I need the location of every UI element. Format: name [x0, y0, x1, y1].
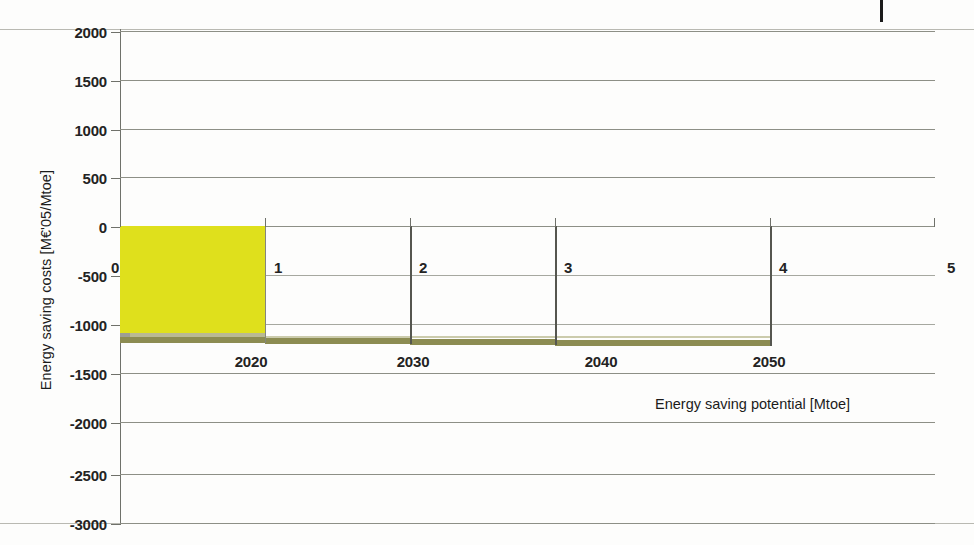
x-tick-4: [770, 218, 771, 227]
vgrid-3: [555, 226, 557, 345]
y-tick-label-minus2000: -2000: [70, 415, 107, 432]
y-tick-minus3000: [111, 524, 120, 525]
x-tick-5: [934, 218, 935, 227]
plot-area: 2000 1500 1000 500 0 -500: [120, 31, 935, 523]
band-baseline-2040: [410, 339, 555, 345]
gridline-minus2500: -2500: [120, 474, 935, 475]
gridline-minus1500: -1500: [120, 373, 935, 374]
y-tick-minus2000: [111, 423, 120, 424]
year-label-2030: 2030: [397, 353, 430, 370]
y-tick-label-1500: 1500: [74, 73, 107, 90]
y-tick-minus1000: [111, 325, 120, 326]
band-baseline-2020: [120, 337, 265, 343]
y-tick-minus500: [111, 276, 120, 277]
year-label-2050: 2050: [753, 353, 786, 370]
x-tick-label-1: 1: [274, 259, 282, 276]
x-tick-label-2: 2: [419, 259, 427, 276]
gridline-minus3000: -3000: [120, 523, 935, 524]
x-tick-2: [410, 218, 411, 227]
vgrid-2: [410, 226, 412, 344]
x-tick-1: [265, 218, 266, 227]
chart-figure: Energy saving costs [M€'05/Mtoe] Energy …: [0, 0, 974, 545]
gridline-500: 500: [120, 177, 935, 178]
gridline-2000: 2000: [120, 31, 935, 32]
x-tick-3: [555, 218, 556, 227]
y-tick-1000: [111, 130, 120, 131]
x-tick-label-0: 0: [111, 259, 119, 276]
vgrid-4: [770, 226, 772, 346]
y-tick-label-minus3000: -3000: [70, 516, 107, 533]
y-axis-title: Energy saving costs [M€'05/Mtoe]: [38, 130, 54, 430]
y-tick-label-1000: 1000: [74, 122, 107, 139]
y-tick-2000: [111, 32, 120, 33]
y-tick-label-minus500: -500: [78, 268, 107, 285]
gridline-1500: 1500: [120, 80, 935, 81]
y-tick-minus2500: [111, 475, 120, 476]
y-tick-minus1500: [111, 374, 120, 375]
y-tick-label-0: 0: [99, 219, 107, 236]
y-tick-1500: [111, 81, 120, 82]
year-label-2040: 2040: [585, 353, 618, 370]
vgrid-1: [265, 226, 266, 343]
y-tick-label-minus1500: -1500: [70, 366, 107, 383]
band-baseline-2030: [265, 338, 410, 344]
bar-energy-saving-cost-2020: [120, 226, 265, 333]
gridline-minus2000: -2000: [120, 422, 935, 423]
y-tick-label-minus1000: -1000: [70, 317, 107, 334]
y-tick-label-500: 500: [83, 170, 107, 187]
x-tick-label-3: 3: [564, 259, 572, 276]
x-tick-0: [120, 218, 121, 227]
x-tick-label-5: 5: [947, 259, 955, 276]
year-label-2020: 2020: [235, 353, 268, 370]
band-baseline-2050: [555, 340, 770, 346]
y-tick-0: [111, 227, 120, 228]
y-tick-label-2000: 2000: [74, 24, 107, 41]
band-seam-right: [265, 336, 770, 338]
x-tick-label-4: 4: [779, 259, 787, 276]
y-tick-500: [111, 178, 120, 179]
gridline-1000: 1000: [120, 129, 935, 130]
y-tick-label-minus2500: -2500: [70, 467, 107, 484]
scanned-page: Energy saving costs [M€'05/Mtoe] Energy …: [0, 0, 974, 545]
